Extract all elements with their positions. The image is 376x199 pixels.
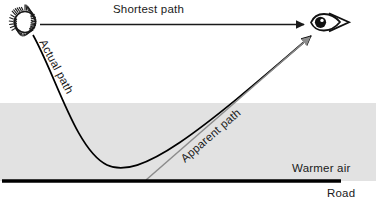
shortest-path-label: Shortest path	[113, 3, 184, 15]
mirage-refraction-diagram: Shortest path Actual path Apparent path …	[0, 0, 376, 199]
sun-icon	[9, 5, 37, 37]
road-label: Road	[327, 187, 355, 199]
warmer-air-label: Warmer air	[292, 162, 350, 174]
eye-icon	[311, 13, 349, 31]
